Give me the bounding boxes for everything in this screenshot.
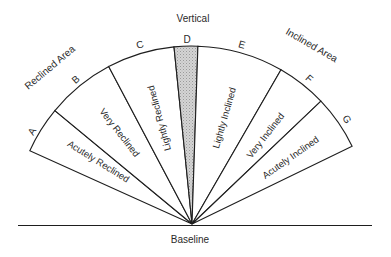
baseline-label: Baseline (171, 234, 210, 245)
marker-a: A (26, 125, 39, 137)
marker-g: G (340, 113, 354, 126)
inclined-area-label: Inclined Area (284, 26, 340, 65)
reclined-area-label: Reclined Area (22, 43, 77, 92)
marker-f: F (303, 72, 315, 84)
fan (30, 46, 352, 224)
marker-d: D (183, 34, 190, 45)
vertical-label: Vertical (177, 13, 210, 24)
posture-angle-diagram: Vertical Baseline Reclined Area Inclined… (0, 0, 391, 257)
marker-e: E (237, 38, 247, 51)
marker-b: B (69, 73, 82, 86)
marker-c: C (135, 38, 145, 51)
